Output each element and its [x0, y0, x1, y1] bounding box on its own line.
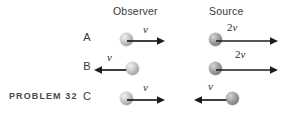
column-heading-observer: Observer — [113, 5, 158, 17]
diagram-row-c: C v v — [0, 84, 289, 114]
column-heading-source: Source — [209, 5, 243, 17]
observer-velocity-symbol-c: v — [143, 81, 148, 93]
observer-ball-b — [126, 62, 139, 75]
observer-velocity-label-a: v — [143, 24, 148, 35]
row-label-c: C — [80, 90, 94, 102]
observer-velocity-label-c: v — [143, 82, 148, 93]
source-velocity-symbol-c: v — [208, 80, 213, 92]
diagram-row-a: A v 2v — [0, 25, 289, 55]
doppler-problem-figure: Observer Source PROBLEM 32 A v 2v B — [0, 0, 289, 122]
row-label-b: B — [80, 60, 94, 72]
observer-velocity-symbol-a: v — [143, 23, 148, 35]
observer-velocity-arrow-c — [127, 96, 165, 104]
source-velocity-arrow-b — [216, 66, 278, 74]
source-velocity-arrow-a — [216, 37, 278, 45]
diagram-row-b: B v 2v — [0, 54, 289, 84]
source-velocity-label-b: 2v — [235, 49, 245, 60]
observer-velocity-arrow-a — [127, 37, 165, 45]
source-velocity-label-a: 2v — [227, 22, 237, 33]
source-velocity-symbol-b: v — [241, 48, 246, 60]
observer-velocity-symbol-b: v — [107, 51, 112, 63]
source-velocity-symbol-a: v — [233, 21, 238, 33]
row-label-a: A — [80, 31, 94, 43]
source-ball-c — [226, 92, 239, 105]
source-velocity-label-c: v — [208, 81, 213, 92]
observer-velocity-label-b: v — [107, 52, 112, 63]
